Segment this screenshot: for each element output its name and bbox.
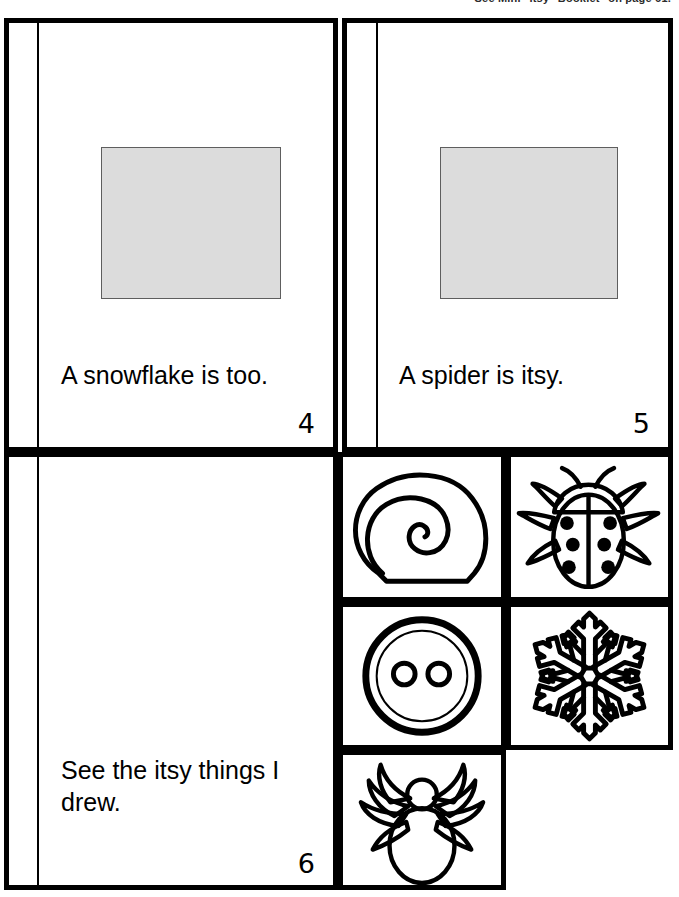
page-number: 5: [633, 408, 650, 439]
page-caption: See the itsy things I drew.: [61, 755, 319, 818]
page-caption: A spider is itsy.: [399, 360, 654, 392]
cutout-cell-button: [338, 602, 506, 750]
button-icon: [343, 607, 501, 745]
bottom-row: See the itsy things I drew. 6: [4, 452, 673, 890]
fold-rule: [37, 457, 39, 885]
header-note: See Mini "Itsy" Booklet" on page 61.: [475, 0, 671, 4]
worksheet-sheet: A snowflake is too. 4 A spider is itsy. …: [4, 18, 673, 890]
photo-placeholder: [101, 147, 281, 299]
page-number: 6: [298, 848, 315, 879]
cutout-cell-snowflake: [506, 602, 673, 750]
snail-shell-icon: [343, 457, 501, 597]
cutout-cell-snail: [338, 452, 506, 602]
spider-icon: [343, 755, 501, 885]
fold-rule: [37, 23, 39, 447]
ladybug-icon: [511, 457, 668, 597]
photo-placeholder: [440, 147, 618, 299]
cutout-picture-grid: [338, 452, 673, 890]
booklet-page-4: A snowflake is too. 4: [4, 18, 338, 452]
cutout-cell-ladybug: [506, 452, 673, 602]
page-caption: A snowflake is too.: [61, 360, 319, 392]
booklet-page-5: A spider is itsy. 5: [342, 18, 673, 452]
fold-rule: [376, 23, 378, 447]
booklet-page-6: See the itsy things I drew. 6: [4, 452, 338, 890]
cutout-cell-spider: [338, 750, 506, 890]
page-number: 4: [298, 408, 315, 439]
snowflake-icon: [511, 607, 668, 745]
